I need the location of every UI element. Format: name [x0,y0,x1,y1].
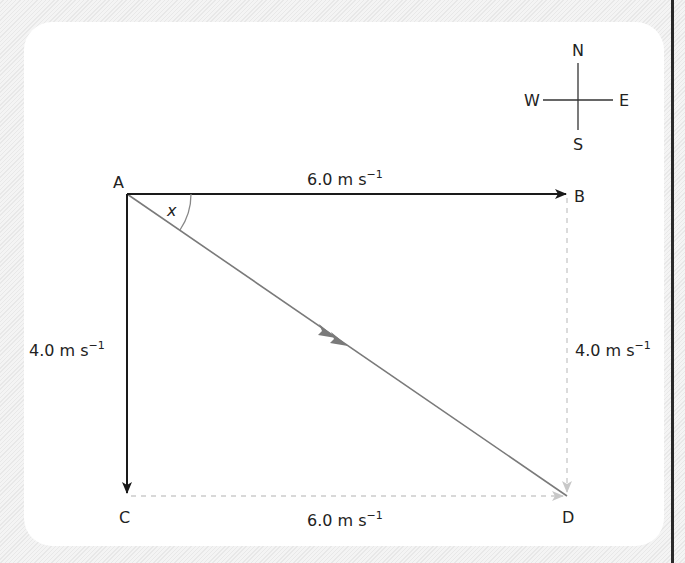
compass-east-label: E [619,91,629,110]
vector-cd-label: 6.0 m s−1 [307,509,383,530]
angle-x-label: x [166,201,177,220]
vector-ab-label: 6.0 m s−1 [307,168,383,189]
compass-south-label: S [573,135,583,154]
compass-west-label: W [524,91,540,110]
vector-diagram: N S E W x A B C D 6.0 m s−1 4.0 m s−1 4.… [0,0,685,563]
point-d-label: D [562,508,574,527]
compass-north-label: N [572,41,584,60]
angle-x-arc [180,194,191,230]
point-b-label: B [574,187,585,206]
point-c-label: C [119,508,130,527]
resultant-arrowhead-icon [330,332,348,346]
vector-ac-label: 4.0 m s−1 [29,339,105,360]
point-a-label: A [113,173,124,192]
resultant-vector-ad [127,194,567,496]
vector-bd-label: 4.0 m s−1 [575,339,651,360]
compass-rose: N S E W [524,41,629,154]
